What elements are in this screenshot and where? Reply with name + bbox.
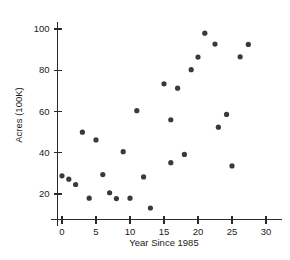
data-point (141, 174, 146, 179)
x-tick-label: 5 (93, 226, 98, 237)
data-point-group (59, 31, 251, 211)
x-tick-label: 15 (159, 226, 170, 237)
data-point (80, 130, 85, 135)
y-tick-label: 20 (39, 188, 50, 199)
x-tick-label: 30 (261, 226, 272, 237)
x-tick-label: 10 (125, 226, 136, 237)
scatter-plot-figure: 20406080100 051015202530 Acres (100K) Ye… (0, 0, 290, 260)
data-point (59, 173, 64, 178)
y-axis-title: Acres (100K) (13, 87, 24, 142)
x-tick-label: 25 (227, 226, 238, 237)
data-point (195, 54, 200, 59)
data-point (189, 67, 194, 72)
data-point (212, 41, 217, 46)
data-point (202, 31, 207, 36)
y-tick-label: 40 (39, 147, 50, 158)
x-tick-label: 20 (193, 226, 204, 237)
data-point (182, 152, 187, 157)
x-axis-title: Year Since 1985 (129, 237, 198, 248)
data-point (73, 182, 78, 187)
data-point (114, 196, 119, 201)
y-tick-label: 100 (34, 23, 50, 34)
data-point (134, 108, 139, 113)
x-tick-group: 051015202530 (59, 216, 271, 237)
data-point (87, 196, 92, 201)
data-point (121, 149, 126, 154)
data-point (66, 177, 71, 182)
data-point (238, 54, 243, 59)
data-point (168, 160, 173, 165)
data-point (175, 86, 180, 91)
x-tick-label: 0 (59, 226, 64, 237)
y-tick-label: 80 (39, 64, 50, 75)
data-point (161, 81, 166, 86)
data-point (224, 112, 229, 117)
data-point (127, 196, 132, 201)
data-point (216, 125, 221, 130)
chart-canvas: 20406080100 051015202530 Acres (100K) Ye… (0, 0, 290, 260)
data-point (148, 205, 153, 210)
data-point (107, 190, 112, 195)
data-point (168, 117, 173, 122)
data-point (93, 137, 98, 142)
y-tick-label: 60 (39, 106, 50, 117)
data-point (100, 172, 105, 177)
data-point (246, 42, 251, 47)
data-point (229, 163, 234, 168)
